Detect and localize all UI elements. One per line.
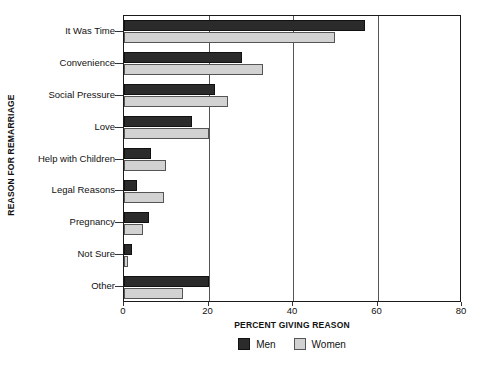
bar-men-help-with-children [124,148,151,159]
category-label-list: It Was TimeConvenienceSocial PressureLov… [22,15,115,302]
legend-label-men: Men [256,339,275,350]
bar-women-it-was-time [124,32,335,43]
x-tick-label-20: 20 [202,305,213,316]
category-label-not-sure: Not Sure [22,249,115,259]
bar-men-not-sure [124,244,132,255]
bar-women-convenience [124,64,263,75]
bar-women-pregnancy [124,224,143,235]
y-tick-5 [115,190,123,191]
y-axis-tick-marks [115,15,123,302]
bar-men-love [124,116,192,127]
category-label-pregnancy: Pregnancy [22,217,115,227]
x-tick-label-80: 80 [456,305,467,316]
bar-men-pregnancy [124,212,149,223]
bar-women-love [124,128,209,139]
y-tick-3 [115,127,123,128]
bar-men-other [124,276,209,287]
bar-men-social-pressure [124,84,215,95]
category-label-other: Other [22,281,115,291]
category-label-love: Love [22,122,115,132]
y-tick-0 [115,31,123,32]
bar-women-not-sure [124,256,128,267]
x-axis-title: PERCENT GIVING REASON [123,320,461,330]
bar-women-help-with-children [124,160,166,171]
bar-men-it-was-time [124,20,365,31]
plot-area [123,15,461,302]
y-tick-7 [115,254,123,255]
y-axis-title: REASON FOR REMARRIAGE [0,0,22,310]
x-tick-label-40: 40 [287,305,298,316]
category-label-legal-reasons: Legal Reasons [22,185,115,195]
x-axis-tick-labels: 020406080 [123,305,461,319]
legend-entry-men: Men [238,338,275,350]
bar-men-convenience [124,52,242,63]
women-swatch [294,338,306,350]
y-tick-2 [115,95,123,96]
category-label-help-with-children: Help with Children [22,154,115,164]
y-tick-6 [115,222,123,223]
y-tick-8 [115,286,123,287]
chart-legend: MenWomen [123,338,461,350]
x-tick-label-0: 0 [120,305,125,316]
bar-men-legal-reasons [124,180,137,191]
bars-layer [124,16,460,301]
x-tick-label-60: 60 [371,305,382,316]
bar-women-social-pressure [124,96,228,107]
y-tick-1 [115,63,123,64]
bar-women-legal-reasons [124,192,164,203]
category-label-convenience: Convenience [22,58,115,68]
category-label-it-was-time: It Was Time [22,26,115,36]
y-axis-title-text: REASON FOR REMARRIAGE [6,94,16,215]
legend-label-women: Women [312,339,346,350]
y-tick-4 [115,159,123,160]
legend-entry-women: Women [294,338,346,350]
remarriage-reasons-bar-chart: REASON FOR REMARRIAGE It Was TimeConveni… [0,0,483,370]
men-swatch [238,338,250,350]
category-label-social-pressure: Social Pressure [22,90,115,100]
bar-women-other [124,288,183,299]
